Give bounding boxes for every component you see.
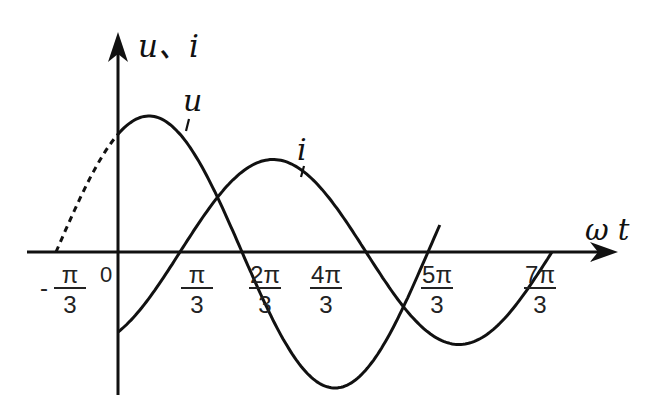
svg-text:3: 3 <box>319 291 332 318</box>
i-label-leader <box>301 166 304 177</box>
x-tick-label: 4π3 <box>310 261 342 318</box>
phase-diagram: u、i ω t u i 0 π3-π32π34π35π37π3 <box>0 0 648 420</box>
svg-text:4π: 4π <box>311 261 341 288</box>
origin-label: 0 <box>100 262 112 287</box>
svg-text:2π: 2π <box>250 261 280 288</box>
svg-text:3: 3 <box>190 291 203 318</box>
i-curve-label: i <box>297 132 307 167</box>
u-label-leader <box>186 119 189 131</box>
u-curve-dashed-extension <box>56 134 118 252</box>
svg-text:3: 3 <box>63 291 76 318</box>
svg-text:π: π <box>189 261 206 288</box>
x-tick-label: π3- <box>40 261 86 318</box>
x-axis-label: ω t <box>585 213 630 247</box>
svg-text:3: 3 <box>533 291 546 318</box>
svg-text:7π: 7π <box>525 261 555 288</box>
svg-text:3: 3 <box>430 291 443 318</box>
svg-text:3: 3 <box>258 291 271 318</box>
svg-text:-: - <box>40 274 48 301</box>
svg-text:5π: 5π <box>422 261 452 288</box>
svg-text:π: π <box>62 261 79 288</box>
u-curve-label: u <box>183 83 202 118</box>
x-tick-label: π3 <box>181 261 213 318</box>
x-tick-label: 2π3 <box>249 261 281 318</box>
x-tick-label: 5π3 <box>421 261 453 318</box>
y-axis-label: u、i <box>138 28 199 64</box>
